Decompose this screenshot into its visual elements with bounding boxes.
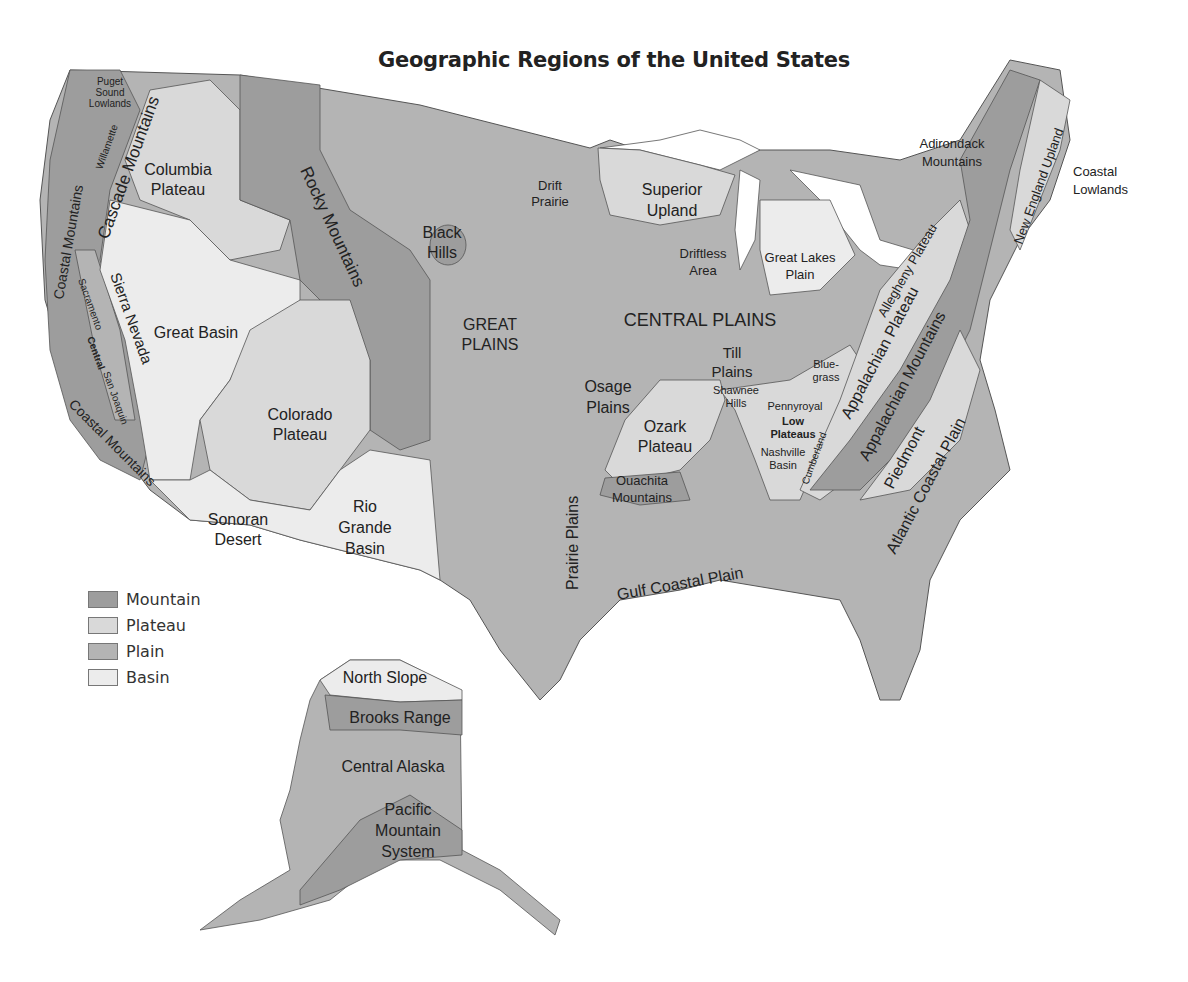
svg-text:System: System bbox=[381, 843, 434, 860]
svg-text:Basin: Basin bbox=[345, 540, 385, 557]
legend-item-mountain: Mountain bbox=[88, 586, 201, 612]
svg-text:Grande: Grande bbox=[338, 519, 391, 536]
svg-text:Central Alaska: Central Alaska bbox=[341, 758, 444, 775]
svg-text:Black: Black bbox=[422, 224, 462, 241]
mountain-swatch bbox=[88, 591, 118, 608]
svg-text:grass: grass bbox=[813, 371, 840, 383]
svg-text:Colorado: Colorado bbox=[268, 406, 333, 423]
svg-text:Puget: Puget bbox=[97, 76, 123, 87]
svg-text:Plateau: Plateau bbox=[638, 438, 692, 455]
svg-text:Plateaus: Plateaus bbox=[770, 428, 815, 440]
svg-text:Shawnee: Shawnee bbox=[713, 384, 759, 396]
svg-text:PLAINS: PLAINS bbox=[462, 336, 519, 353]
svg-text:Rio: Rio bbox=[353, 498, 377, 515]
svg-text:Ozark: Ozark bbox=[644, 418, 688, 435]
svg-text:Brooks Range: Brooks Range bbox=[349, 709, 450, 726]
svg-text:Plateau: Plateau bbox=[151, 181, 205, 198]
svg-text:Columbia: Columbia bbox=[144, 161, 212, 178]
svg-text:Basin: Basin bbox=[769, 459, 797, 471]
svg-text:Plateau: Plateau bbox=[273, 426, 327, 443]
svg-text:Lowlands: Lowlands bbox=[89, 98, 131, 109]
svg-text:Sonoran: Sonoran bbox=[208, 511, 269, 528]
svg-text:Drift: Drift bbox=[538, 178, 562, 193]
us-regions-map: Puget Sound Lowlands Cascade Mountains C… bbox=[0, 0, 1188, 982]
svg-text:Mountains: Mountains bbox=[612, 490, 672, 505]
svg-text:CENTRAL PLAINS: CENTRAL PLAINS bbox=[624, 310, 776, 330]
svg-text:North Slope: North Slope bbox=[343, 669, 428, 686]
svg-text:Mountain: Mountain bbox=[375, 822, 441, 839]
svg-text:Upland: Upland bbox=[647, 202, 698, 219]
svg-text:Desert: Desert bbox=[214, 531, 262, 548]
svg-text:Area: Area bbox=[689, 263, 717, 278]
svg-text:Adirondack: Adirondack bbox=[919, 136, 985, 151]
svg-text:Prairie: Prairie bbox=[531, 194, 569, 209]
svg-text:Pennyroyal: Pennyroyal bbox=[767, 400, 822, 412]
svg-text:Driftless: Driftless bbox=[680, 246, 727, 261]
svg-text:Prairie Plains: Prairie Plains bbox=[564, 496, 581, 590]
svg-text:Great Basin: Great Basin bbox=[154, 324, 238, 341]
svg-text:Lowlands: Lowlands bbox=[1073, 182, 1128, 197]
legend-item-plateau: Plateau bbox=[88, 612, 201, 638]
svg-text:Plain: Plain bbox=[786, 267, 815, 282]
svg-text:Hills: Hills bbox=[726, 397, 747, 409]
legend-item-basin: Basin bbox=[88, 664, 201, 690]
svg-text:Coastal: Coastal bbox=[1073, 164, 1117, 179]
svg-text:Hills: Hills bbox=[427, 244, 457, 261]
svg-text:Till: Till bbox=[723, 344, 742, 361]
svg-text:Plains: Plains bbox=[712, 363, 753, 380]
svg-text:Ouachita: Ouachita bbox=[616, 473, 669, 488]
svg-text:Nashville: Nashville bbox=[761, 446, 806, 458]
svg-text:GREAT: GREAT bbox=[463, 316, 517, 333]
basin-swatch bbox=[88, 669, 118, 686]
plateau-swatch bbox=[88, 617, 118, 634]
svg-text:Blue-: Blue- bbox=[813, 358, 839, 370]
svg-text:Pacific: Pacific bbox=[384, 801, 431, 818]
plain-swatch bbox=[88, 643, 118, 660]
svg-text:Superior: Superior bbox=[642, 181, 703, 198]
legend-item-plain: Plain bbox=[88, 638, 201, 664]
svg-text:Low: Low bbox=[782, 415, 804, 427]
svg-text:Great Lakes: Great Lakes bbox=[765, 250, 836, 265]
map-legend: Mountain Plateau Plain Basin bbox=[88, 586, 201, 690]
svg-text:Osage: Osage bbox=[584, 378, 631, 395]
svg-text:Mountains: Mountains bbox=[922, 154, 982, 169]
svg-text:Sound: Sound bbox=[96, 87, 125, 98]
svg-text:Plains: Plains bbox=[586, 399, 630, 416]
